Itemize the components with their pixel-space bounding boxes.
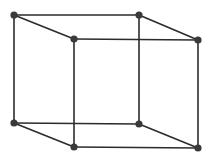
edge-back-top-right-to-front-top-right <box>139 15 198 40</box>
vertex-front-top-right <box>194 36 201 43</box>
edge-back-bottom-right-to-front-bottom-right <box>139 124 198 148</box>
vertex-back-top-left <box>10 11 17 18</box>
wireframe-cube <box>0 0 215 158</box>
cube-edges <box>14 15 198 148</box>
cube-diagram <box>0 0 215 158</box>
vertex-back-bottom-left <box>10 119 17 126</box>
edge-front-top-left-to-front-top-right <box>74 39 198 40</box>
edge-back-top-left-to-front-top-left <box>14 15 74 39</box>
vertex-front-bottom-left <box>70 143 77 150</box>
vertex-front-top-left <box>70 35 77 42</box>
vertex-front-bottom-right <box>194 144 201 151</box>
edge-back-bottom-left-to-back-bottom-right <box>14 123 139 124</box>
edge-front-bottom-left-to-front-bottom-right <box>74 147 198 148</box>
vertex-back-bottom-right <box>135 120 142 127</box>
edge-back-bottom-left-to-front-bottom-left <box>14 123 74 147</box>
cube-vertices <box>10 11 201 151</box>
vertex-back-top-right <box>135 11 142 18</box>
